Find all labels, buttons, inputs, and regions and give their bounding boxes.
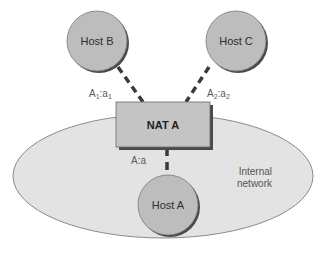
- port-a1-subscript: 1: [108, 93, 112, 100]
- address-a1: A: [89, 88, 96, 99]
- link-label-a1-a1: A1:a1: [89, 88, 112, 99]
- nat-diagram: Host B Host C Host A NAT A A1:a1 A2:a2 A…: [0, 0, 326, 256]
- link-host-b-to-nat: [118, 67, 143, 102]
- internal-network-label-line2: network: [234, 178, 272, 190]
- link-host-c-to-nat: [186, 67, 209, 102]
- port-a2-subscript: 2: [226, 93, 230, 100]
- link-label-a-a: A:a: [131, 155, 146, 166]
- host-c-label: Host C: [219, 35, 253, 47]
- host-a-label: Host A: [152, 199, 184, 211]
- host-b-label: Host B: [80, 35, 113, 47]
- internal-network-label-line1: Internal: [234, 166, 272, 178]
- link-label-a2-a2: A2:a2: [207, 88, 230, 99]
- address-a2: A: [207, 88, 214, 99]
- internal-network-label: Internal network: [234, 166, 272, 190]
- nat-a-label: NAT A: [147, 119, 179, 131]
